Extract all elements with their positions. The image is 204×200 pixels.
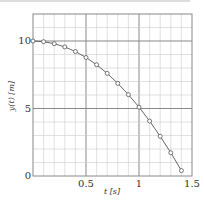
data-point-marker: [84, 55, 88, 59]
y-tick-label: 5: [25, 103, 31, 114]
data-point-marker: [95, 63, 99, 67]
x-axis-label: t [s]: [104, 187, 121, 196]
data-point-marker: [42, 40, 46, 44]
grid: [33, 14, 192, 176]
x-tick-label: 0.5: [78, 178, 94, 189]
x-tick-label: 1: [136, 178, 142, 189]
data-point-marker: [73, 50, 77, 54]
y-tick-label: 0: [25, 170, 31, 181]
data-point-marker: [137, 105, 141, 109]
x-tick-label: 1.5: [184, 178, 200, 189]
y-tick-label: 10: [18, 35, 31, 46]
data-point-marker: [126, 93, 130, 97]
data-point-marker: [31, 39, 35, 43]
data-point-marker: [105, 71, 109, 75]
data-point-marker: [148, 119, 152, 123]
data-point-marker: [63, 45, 67, 49]
data-point-marker: [116, 81, 120, 85]
data-point-marker: [52, 42, 56, 46]
chart: 0.511.5 0510 t [s] y(t) [m]: [0, 0, 204, 200]
data-point-marker: [158, 134, 162, 138]
data-point-marker: [169, 151, 173, 155]
data-point-marker: [179, 169, 183, 173]
y-tick-labels: 0510: [18, 35, 31, 181]
x-tick-labels: 0.511.5: [78, 178, 200, 189]
y-axis-label: y(t) [m]: [7, 80, 16, 112]
